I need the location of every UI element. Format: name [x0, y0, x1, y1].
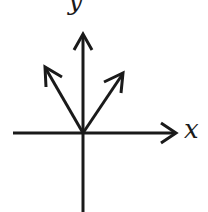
y-axis-label: y [68, 0, 83, 14]
vector-upper-left [45, 67, 83, 133]
x-axis [13, 123, 176, 143]
vector-upper-right [83, 73, 123, 133]
x-axis-label: x [184, 116, 199, 142]
vector-diagram [0, 0, 208, 212]
